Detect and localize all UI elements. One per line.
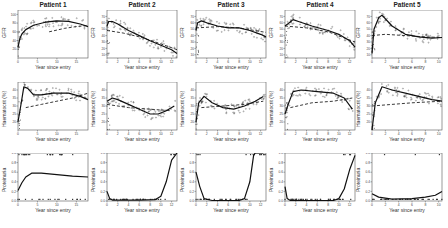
y-tick-label: 30 [101, 40, 105, 44]
fitted-subject-line [372, 87, 442, 130]
y-axis-label: Proteinuria [268, 168, 274, 192]
y-tick-label: 1.0 [366, 153, 371, 155]
y-tick-label: 0.0 [12, 199, 17, 203]
fitted-subject-line [372, 191, 442, 199]
y-tick-label: 60 [366, 21, 370, 25]
y-axis-label: GFR [1, 28, 7, 39]
y-tick-label: 60 [12, 30, 16, 34]
y-tick-label: 20 [101, 120, 105, 124]
fitted-subject-line [18, 87, 88, 122]
y-tick-label: 0.6 [12, 170, 17, 174]
x-axis-label: Year since entry [372, 136, 442, 142]
y-tick-label: 50 [366, 27, 370, 31]
y-tick-label: 0.2 [190, 190, 195, 194]
y-tick-label: 0.6 [279, 170, 284, 174]
plot-frame [372, 82, 442, 130]
plot-frame [196, 82, 266, 130]
y-axis-label: Haematocrit (%) [355, 91, 361, 127]
y-tick-label: 0.8 [12, 161, 17, 165]
y-tick-label: 80 [12, 21, 16, 25]
y-tick-label: 0.8 [190, 161, 195, 165]
y-tick-label: 30 [279, 104, 283, 108]
y-tick-label: 25 [279, 112, 283, 116]
y-axis-label: Haematocrit (%) [179, 91, 185, 127]
y-tick-label: 10 [190, 53, 194, 57]
plot-frame [196, 153, 266, 201]
population-mean-line [372, 101, 442, 106]
population-mean-line [49, 25, 88, 32]
y-tick-label: 0.4 [366, 180, 371, 184]
y-tick-label: 0.4 [12, 180, 17, 184]
y-tick-label: 20 [190, 120, 194, 124]
plot-frame [285, 153, 355, 201]
plot-frame [107, 10, 177, 58]
y-tick-label: 0.2 [279, 190, 284, 194]
fitted-subject-line [107, 22, 177, 54]
y-axis-label: Haematocrit (%) [268, 91, 274, 127]
y-tick-label: 40 [279, 88, 283, 92]
plot-frame [372, 10, 442, 58]
x-axis-label: Year since entry [196, 136, 266, 142]
y-tick-label: 70 [366, 15, 370, 19]
y-tick-label: 1.0 [190, 153, 195, 155]
y-tick-label: 70 [279, 15, 283, 19]
y-tick-label: 1.0 [101, 153, 106, 155]
y-tick-label: 0.0 [279, 199, 284, 203]
y-tick-label: 1.0 [12, 153, 17, 155]
y-tick-label: 0.2 [101, 190, 106, 194]
y-tick-label: 60 [279, 21, 283, 25]
y-tick-label: 100 [11, 13, 17, 17]
x-axis-label: Year since entry [107, 64, 177, 70]
y-tick-label: 50 [190, 27, 194, 31]
x-axis-label: Year since entry [196, 207, 266, 213]
plot-frame [372, 153, 442, 201]
y-tick-label: 30 [12, 104, 16, 108]
fitted-subject-line [196, 153, 263, 201]
y-tick-label: 1.0 [279, 153, 284, 155]
patient-title: Patient 2 [107, 1, 177, 8]
x-axis-label: Year since entry [18, 207, 88, 213]
x-axis-label: Year since entry [372, 64, 442, 70]
y-tick-label: 0.2 [366, 190, 371, 194]
y-tick-label: 10 [101, 53, 105, 57]
y-tick-label: 20 [279, 120, 283, 124]
y-tick-label: 40 [366, 34, 370, 38]
patient-title: Patient 4 [285, 1, 355, 8]
fitted-subject-line [18, 173, 88, 190]
y-tick-label: 30 [190, 104, 194, 108]
y-tick-label: 30 [101, 104, 105, 108]
y-tick-label: 25 [366, 112, 370, 116]
fitted-subject-line [18, 21, 88, 47]
y-tick-label: 0.0 [190, 199, 195, 203]
y-tick-label: 0.6 [366, 170, 371, 174]
y-tick-label: 35 [190, 96, 194, 100]
y-tick-label: 0.2 [12, 190, 17, 194]
x-axis-label: Year since entry [196, 64, 266, 70]
x-axis-label: Year since entry [107, 207, 177, 213]
y-tick-label: 30 [366, 40, 370, 44]
y-axis-label: GFR [179, 28, 185, 39]
y-tick-label: 35 [101, 96, 105, 100]
y-tick-label: 25 [190, 112, 194, 116]
patient-title: Patient 3 [196, 1, 266, 8]
y-tick-label: 50 [101, 27, 105, 31]
y-tick-label: 35 [279, 96, 283, 100]
patient-plot-grid: 20406080100051015GFRYear since entry2025… [0, 0, 448, 228]
y-axis-label: Haematocrit (%) [1, 91, 7, 127]
observed-points [372, 12, 440, 52]
y-tick-label: 20 [12, 47, 16, 51]
plot-frame [18, 10, 88, 58]
population-mean-line [290, 98, 352, 108]
y-tick-label: 70 [101, 15, 105, 19]
population-mean-line [107, 30, 177, 49]
y-tick-label: 40 [190, 88, 194, 92]
patient-title: Patient 5 [372, 1, 442, 8]
observed-points [285, 87, 353, 130]
y-tick-label: 20 [101, 47, 105, 51]
y-tick-label: 35 [366, 96, 370, 100]
y-tick-label: 40 [190, 34, 194, 38]
x-axis-label: Year since entry [107, 136, 177, 142]
observed-points [372, 83, 442, 130]
plot-frame [18, 153, 88, 201]
y-tick-label: 40 [101, 88, 105, 92]
